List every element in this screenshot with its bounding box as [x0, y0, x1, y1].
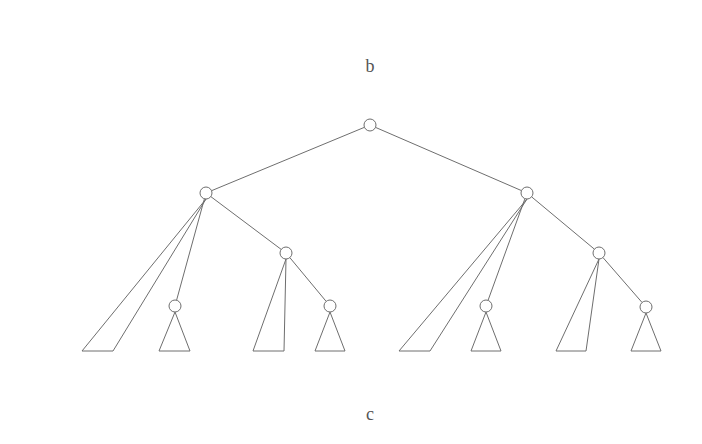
- tree-diagram: [0, 0, 702, 444]
- subtree-triangle: [82, 199, 206, 351]
- subtree-triangle: [159, 312, 190, 351]
- tree-node: [521, 187, 533, 199]
- tree-node: [480, 300, 492, 312]
- subtree-triangle: [556, 259, 599, 351]
- tree-edge: [212, 127, 365, 190]
- label-c: c: [366, 404, 374, 425]
- subtree-triangle: [631, 313, 661, 351]
- tree-node: [364, 119, 376, 131]
- tree-edge: [290, 258, 326, 302]
- subtree-triangle: [253, 259, 286, 351]
- tree-node: [169, 300, 181, 312]
- tree-edge: [488, 199, 525, 301]
- tree-edge: [376, 127, 522, 190]
- tree-node: [200, 187, 212, 199]
- subtree-triangle: [471, 312, 501, 351]
- tree-node: [640, 301, 652, 313]
- subtree-triangles: [82, 199, 661, 351]
- tree-node: [593, 247, 605, 259]
- tree-edge: [532, 197, 595, 249]
- tree-node: [280, 247, 292, 259]
- tree-edge: [211, 197, 281, 250]
- tree-edge: [177, 199, 205, 300]
- subtree-triangle: [315, 312, 345, 351]
- tree-edge: [603, 258, 642, 303]
- subtree-triangle: [399, 199, 527, 351]
- tree-nodes: [169, 119, 652, 313]
- tree-edges: [177, 127, 642, 302]
- tree-node: [324, 300, 336, 312]
